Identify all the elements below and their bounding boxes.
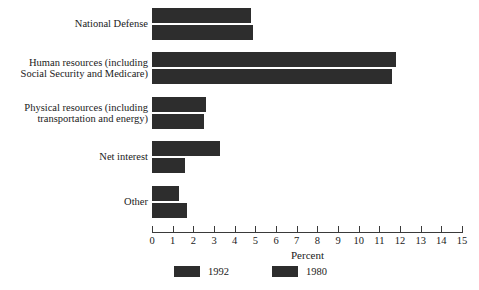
x-axis-tick (297, 226, 298, 232)
legend-label: 1980 (306, 266, 327, 277)
legend-label: 1992 (208, 266, 229, 277)
bar-group (152, 8, 462, 40)
x-axis-tick (173, 226, 174, 232)
category-label: Net interest (0, 151, 148, 163)
x-axis-tick (193, 226, 194, 232)
legend-swatch (174, 266, 200, 277)
bar-group (152, 186, 462, 218)
x-axis-tick-label: 15 (450, 235, 474, 246)
bar-group (152, 141, 462, 173)
bar (152, 52, 396, 67)
x-axis-tick (379, 226, 380, 232)
x-axis-tick (152, 226, 153, 232)
bar (152, 97, 206, 112)
bar (152, 114, 204, 129)
bar (152, 158, 185, 173)
bar (152, 203, 187, 218)
bar-group (152, 97, 462, 129)
x-axis-tick (276, 226, 277, 232)
category-label: National Defense (0, 18, 148, 30)
x-axis-tick (421, 226, 422, 232)
x-axis-tick (255, 226, 256, 232)
bar (152, 69, 392, 84)
category-label: Other (0, 196, 148, 208)
bar (152, 8, 251, 23)
bar-chart: National DefenseHuman resources (includi… (0, 0, 479, 290)
x-axis-title: Percent (152, 249, 463, 261)
bar (152, 141, 220, 156)
bar (152, 25, 253, 40)
x-axis-tick (462, 226, 463, 232)
x-axis-tick (317, 226, 318, 232)
x-axis-tick (235, 226, 236, 232)
x-axis-tick (359, 226, 360, 232)
category-label: Human resources (including Social Securi… (0, 57, 148, 80)
legend-item[interactable]: 1992 (174, 266, 229, 277)
chart-legend: 19921980 (152, 266, 463, 282)
legend-swatch (272, 266, 298, 277)
x-axis-tick (441, 226, 442, 232)
legend-item[interactable]: 1980 (272, 266, 327, 277)
plot-area (152, 8, 462, 228)
category-label: Physical resources (including transporta… (0, 102, 148, 125)
bar (152, 186, 179, 201)
x-axis-tick (400, 226, 401, 232)
x-axis-line (152, 232, 463, 233)
bar-group (152, 52, 462, 84)
x-axis-tick (214, 226, 215, 232)
x-axis-tick (338, 226, 339, 232)
